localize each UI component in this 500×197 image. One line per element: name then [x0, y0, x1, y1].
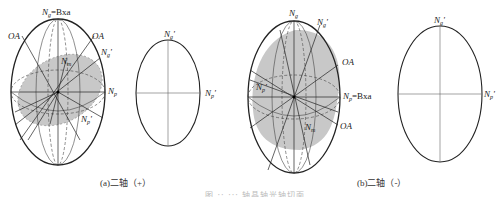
- label-oa-upper-b: OA: [342, 57, 354, 67]
- label-ng-prime-section-b: Ng': [433, 15, 446, 26]
- label-ng-prime-b: Ng': [316, 17, 329, 28]
- panel-a-section-ellipse: [136, 40, 200, 146]
- figure-caption: 图 ·· ··· 轴晶轴光轴切面: [205, 189, 305, 197]
- label-ng-prime-a: Ng': [100, 47, 113, 58]
- label-np-a: Np: [107, 86, 117, 97]
- caption-panel-a: (a)二轴（+）: [100, 176, 151, 189]
- label-np-prime-section-a: Np': [204, 88, 217, 99]
- label-ng-bxa-a: Ng=Bxa: [41, 7, 71, 18]
- panel-b-main-ellipse: [248, 21, 340, 173]
- label-np-prime-a: Np': [80, 114, 93, 125]
- label-ng-prime-section-a: Ng': [163, 29, 176, 40]
- label-oa-lower-b: OA: [340, 121, 352, 131]
- panel-b-section-ellipse: [398, 26, 482, 162]
- indicatrix-diagram: Ng=Bxa OA OA Ng' Nm Np Np' Ng' Np' Ng Ng…: [0, 0, 500, 197]
- label-oa-right-a: OA: [92, 31, 104, 41]
- label-np-prime-b: Np': [255, 82, 268, 93]
- label-ng-b: Ng: [288, 8, 298, 19]
- label-oa-left-a: OA: [8, 31, 20, 41]
- label-np-prime-section-b: Np': [483, 89, 496, 100]
- caption-panel-b: (b)二轴（-）: [357, 176, 407, 189]
- label-np-bxa-b: Np=Bxa: [342, 91, 372, 102]
